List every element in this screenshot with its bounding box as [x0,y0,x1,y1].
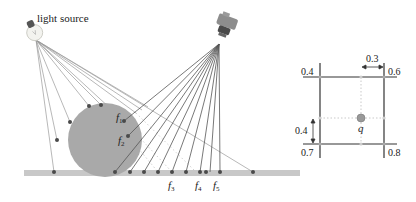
feature-point-f4 [198,170,202,174]
camera-rays [115,44,220,172]
value-bottom-left: 0.7 [301,147,314,158]
horizontal-offset-arrow [362,65,383,69]
value-top-right: 0.6 [388,66,401,77]
sphere [68,103,142,177]
camera-icon [212,10,239,39]
query-label: q [358,122,364,134]
light-source-label: light source [37,12,89,24]
ground-plane [24,170,300,176]
feature-point-f1 [122,119,126,123]
vertical-offset-label: 0.4 [295,125,308,136]
value-bottom-right: 0.8 [388,147,401,158]
label-f4: f4 [195,179,202,193]
feature-point-f2 [126,134,130,138]
interpolation-grid: q 0.4 0.6 0.7 0.8 0.3 0.4 [295,53,401,158]
light-rays [36,40,253,172]
feature-point-f3 [170,170,174,174]
diagram-stage: f1 f2 f3 f4 f5 light source [0,0,416,202]
horizontal-offset-label: 0.3 [366,53,379,64]
vertical-offset-arrow [311,119,315,143]
query-point [357,114,365,122]
feature-point-f5 [218,170,222,174]
scene-panel: f1 f2 f3 f4 f5 light source [22,10,300,193]
value-top-left: 0.4 [301,66,314,77]
label-f5: f5 [213,179,220,193]
label-f3: f3 [168,179,175,193]
